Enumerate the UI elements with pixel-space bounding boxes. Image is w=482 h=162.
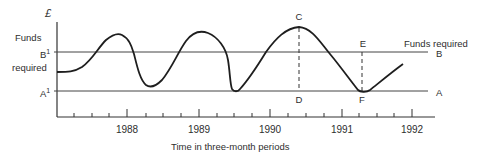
left-label-b-prime: B1 [40, 46, 50, 60]
right-label-a: A [436, 87, 442, 98]
year-label-1990: 1990 [259, 124, 281, 135]
left-label-a-prime: A1 [40, 85, 50, 99]
right-label-b: B [436, 48, 442, 59]
year-label-1989: 1989 [188, 124, 210, 135]
funds-curve [57, 27, 403, 92]
year-label-1991: 1991 [331, 124, 353, 135]
point-label-c: C [296, 11, 303, 22]
left-label-required: required [12, 62, 47, 73]
y-axis-currency-symbol: £ [45, 8, 51, 19]
point-label-f: F [359, 94, 365, 105]
year-label-1992: 1992 [401, 124, 423, 135]
left-label-funds: Funds [15, 32, 41, 43]
funds-required-diagram [0, 0, 482, 162]
point-label-e: E [360, 38, 366, 49]
year-label-1988: 1988 [116, 124, 138, 135]
x-axis-title: Time in three-month periods [171, 141, 289, 152]
point-label-d: D [296, 94, 303, 105]
x-axis-ticks [74, 109, 412, 117]
